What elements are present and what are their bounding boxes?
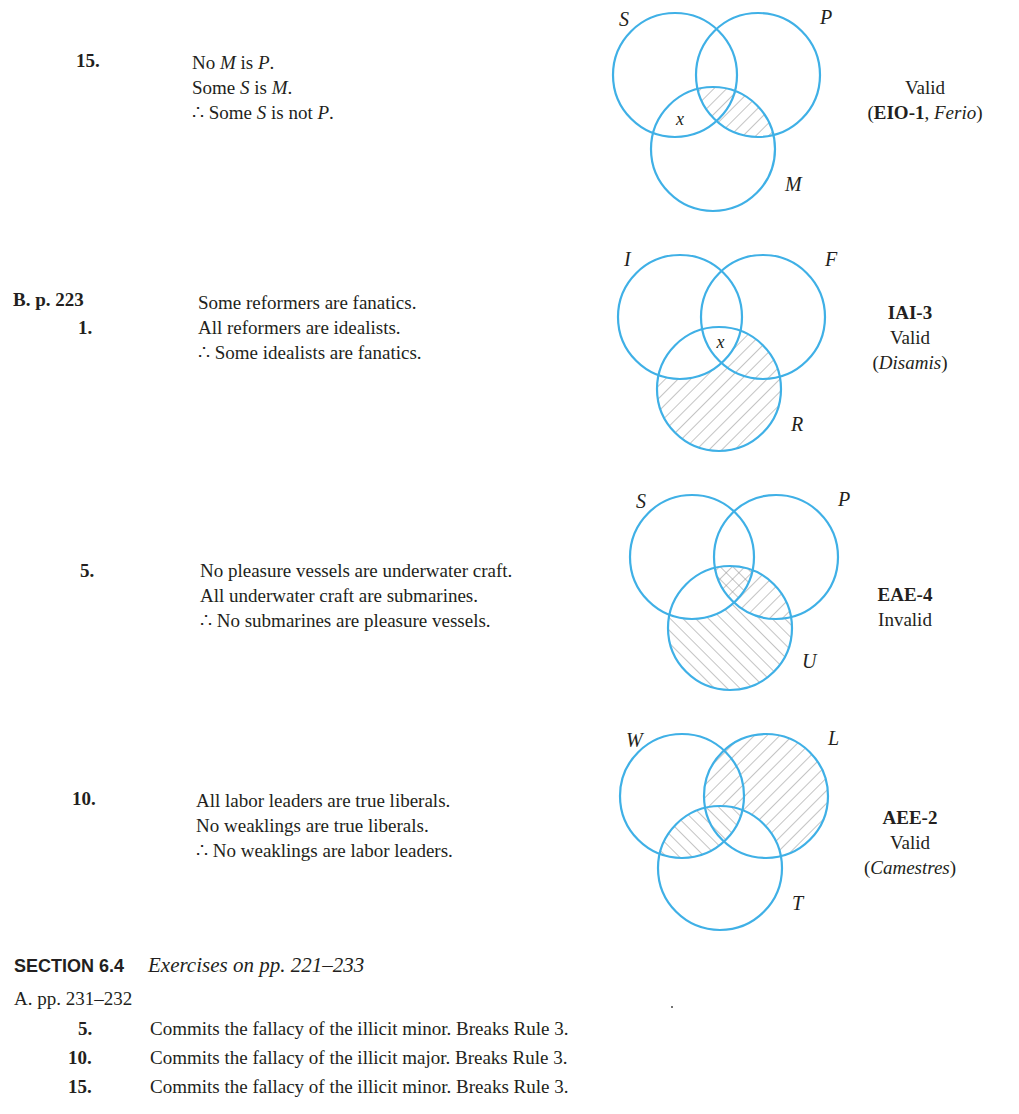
section-heading: SECTION 6.4 (14, 956, 124, 977)
answer-text: Commits the fallacy of the illicit major… (150, 1047, 567, 1069)
section-title: Exercises on pp. 221–233 (148, 953, 364, 978)
part-label: A. pp. 231–232 (14, 988, 132, 1010)
venn-label: L (827, 727, 839, 749)
venn-label: W (626, 729, 645, 751)
venn-label: T (792, 892, 805, 914)
answer-text: Commits the fallacy of the illicit minor… (150, 1018, 568, 1040)
answer-number: 5. (78, 1018, 92, 1040)
shaded-region (0, 0, 1019, 1114)
answer-number: 10. (68, 1047, 92, 1069)
answer-number: 15. (68, 1076, 92, 1098)
venn-diagrams: SPMxIFRxSPUWLT (0, 0, 1019, 1114)
venn-diagram: WLT (0, 0, 1019, 1114)
print-speck (671, 1006, 673, 1008)
answer-text: Commits the fallacy of the illicit minor… (150, 1076, 568, 1098)
